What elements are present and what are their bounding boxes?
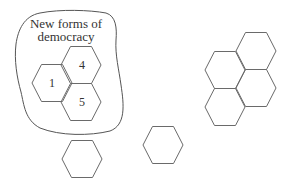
loose-hexagon-2 [143,127,183,164]
hexagon-label-1: 1 [49,76,55,90]
group-title-line2: democracy [37,29,95,44]
loose-hexagon-1 [62,141,102,178]
hexagon-diagram: New forms of democracy 1 4 5 [0,0,291,187]
hexagon-label-5: 5 [79,95,85,109]
hexagon-label-4: 4 [79,58,85,72]
